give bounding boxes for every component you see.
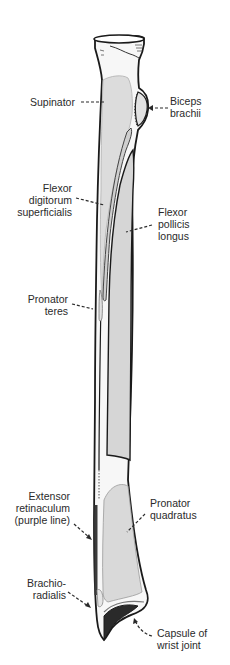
label-extensor-line-2: retinaculum xyxy=(12,502,70,514)
label-pronator-teres-line-1: Pronator xyxy=(24,293,68,305)
label-brachioradialis: Brachio- radialis xyxy=(18,577,66,601)
label-fpl-line-3: longus xyxy=(158,230,190,242)
label-capsule-line-1: Capsule of xyxy=(157,627,207,639)
pronator-teres-attachment xyxy=(99,290,102,321)
label-brachioradialis-line-1: Brachio- xyxy=(18,577,66,589)
label-supinator-line-1: Supinator xyxy=(30,96,75,108)
label-brachioradialis-line-2: radialis xyxy=(18,589,66,601)
label-flexor-pollicis-longus: Flexor pollicis longus xyxy=(158,206,190,242)
label-pq-line-2: quadratus xyxy=(150,509,197,521)
radius-diagram: Supinator Biceps brachii Flexor digitoru… xyxy=(0,0,230,665)
label-extensor-line-1: Extensor xyxy=(12,490,70,502)
label-flexor-digitorum-superficialis: Flexor digitorum superficialis xyxy=(16,182,72,218)
label-pronator-quadratus: Pronator quadratus xyxy=(150,497,197,521)
label-biceps-brachii: Biceps brachii xyxy=(170,95,202,119)
label-extensor-retinaculum: Extensor retinaculum (purple line) xyxy=(12,490,70,526)
label-fds-line-3: superficialis xyxy=(16,206,72,218)
label-extensor-line-3: (purple line) xyxy=(12,514,70,526)
label-supinator: Supinator xyxy=(30,96,75,108)
label-pronator-teres-line-2: teres xyxy=(24,305,68,317)
label-pronator-teres: Pronator teres xyxy=(24,293,68,317)
label-fpl-line-1: Flexor xyxy=(158,206,190,218)
label-pq-line-1: Pronator xyxy=(150,497,197,509)
leader-pronator-teres xyxy=(72,304,93,309)
label-biceps-line-2: brachii xyxy=(170,107,202,119)
label-fds-line-2: digitorum xyxy=(16,194,72,206)
label-fds-line-1: Flexor xyxy=(16,182,72,194)
label-capsule-line-2: wrist joint xyxy=(157,639,207,651)
label-fpl-line-2: pollicis xyxy=(158,218,190,230)
leader-capsule xyxy=(135,620,152,636)
label-biceps-line-1: Biceps xyxy=(170,95,202,107)
label-capsule-of-wrist-joint: Capsule of wrist joint xyxy=(157,627,207,651)
leader-brachioradialis xyxy=(68,592,88,606)
radius-head-top xyxy=(94,35,144,43)
